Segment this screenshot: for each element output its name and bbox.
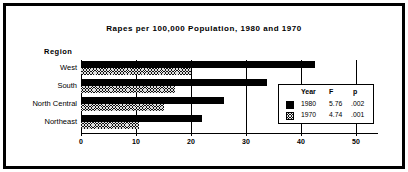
legend-year-1980: 1980 [301,100,316,107]
legend-row-1980: 1980 5.76 .002 [279,99,375,110]
legend-header-p: p [353,88,357,95]
x-tick-label-0: 0 [79,138,83,145]
legend-row-1970: 1970 4.74 .001 [279,110,375,121]
axis-title-region: Region [44,47,72,56]
category-label-northeast: Northeast [44,117,77,126]
category-label-north-central: North Central [32,99,77,108]
legend-f-1980: 5.76 [329,100,342,107]
bar-west-1980 [81,61,315,68]
figure-canvas: Rapes per 100,000 Population, 1980 and 1… [6,6,402,166]
plot-area: Region West South North Central Northeas… [6,6,402,166]
bar-northeast-1980 [81,115,202,122]
x-axis-line [81,133,378,134]
legend-p-1980: .002 [351,100,364,107]
x-tick-0 [81,133,82,136]
legend-header-row: Year F p [279,88,375,98]
bar-northeast-1970 [81,122,139,129]
x-tick-label-30: 30 [242,138,250,145]
x-tick-label-40: 40 [297,138,305,145]
gridline-30 [246,60,247,133]
x-tick-label-20: 20 [187,138,195,145]
bar-west-1970 [81,68,191,75]
legend-f-1970: 4.74 [329,111,342,118]
legend-p-1970: .001 [351,111,364,118]
legend-header-f: F [329,88,333,95]
bar-north-central-1980 [81,97,224,104]
legend-swatch-1980-icon [286,101,294,109]
category-label-west: West [60,63,77,72]
figure-frame: Rapes per 100,000 Population, 1980 and 1… [3,3,405,169]
bar-south-1980 [81,79,267,86]
x-tick-40 [301,133,302,136]
legend: Year F p 1980 5.76 .002 1970 4.74 .001 [278,84,374,124]
bar-south-1970 [81,86,175,93]
bar-north-central-1970 [81,104,164,111]
x-tick-20 [191,133,192,136]
x-tick-10 [136,133,137,136]
x-tick-50 [356,133,357,136]
legend-swatch-1970-icon [286,112,294,120]
x-tick-label-10: 10 [132,138,140,145]
x-tick-label-50: 50 [352,138,360,145]
legend-header-year: Year [301,88,316,95]
category-label-south: South [57,81,77,90]
x-tick-30 [246,133,247,136]
legend-year-1970: 1970 [301,111,316,118]
